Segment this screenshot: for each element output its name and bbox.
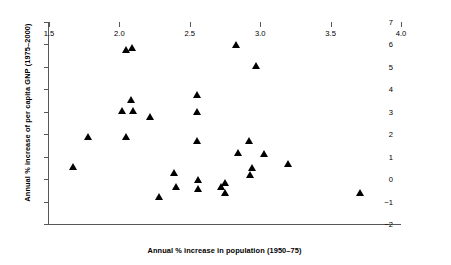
x-axis-tick-label: 1.5	[44, 29, 55, 38]
data-point-marker	[232, 41, 240, 48]
data-point-marker	[260, 150, 268, 157]
y-axis-tick	[44, 224, 49, 225]
y-axis-tick-label: 0	[389, 175, 393, 184]
data-point-marker	[234, 149, 242, 156]
data-point-marker	[118, 107, 126, 114]
y-axis-tick-label: 7	[389, 18, 393, 27]
data-point-marker	[356, 189, 364, 196]
x-axis-tick	[119, 22, 120, 27]
y-axis-label: Annual % increase of per capita GNP (197…	[23, 8, 32, 218]
y-axis-tick	[44, 67, 49, 68]
y-axis-tick	[44, 89, 49, 90]
y-axis-tick	[44, 202, 49, 203]
data-point-marker	[128, 44, 136, 51]
x-axis-tick	[331, 22, 332, 27]
y-axis-tick	[44, 157, 49, 158]
data-point-marker	[127, 96, 135, 103]
x-axis-tick-label: 2.0	[114, 29, 125, 38]
data-point-marker	[172, 183, 180, 190]
data-point-marker	[194, 185, 202, 192]
x-axis-tick	[260, 22, 261, 27]
data-point-marker	[129, 107, 137, 114]
data-point-marker	[122, 133, 130, 140]
data-point-marker	[248, 164, 256, 171]
x-axis-tick-label: 4.0	[396, 29, 407, 38]
data-point-marker	[246, 171, 254, 178]
data-point-marker	[69, 163, 77, 170]
data-point-marker	[193, 137, 201, 144]
x-axis-tick-label: 3.0	[255, 29, 266, 38]
y-axis-tick-label: 2	[389, 130, 393, 139]
data-point-marker	[252, 62, 260, 69]
data-point-marker	[193, 108, 201, 115]
y-axis-tick	[44, 134, 49, 135]
scatter-plot-figure: Annual % increase of per capita GNP (197…	[0, 0, 451, 265]
y-axis-tick	[44, 44, 49, 45]
x-axis-tick	[401, 22, 402, 27]
data-point-marker	[194, 176, 202, 183]
data-point-marker	[155, 193, 163, 200]
data-point-marker	[170, 169, 178, 176]
x-axis-tick	[190, 22, 191, 27]
y-axis-tick-label: −2	[384, 220, 393, 229]
data-point-marker	[193, 91, 201, 98]
data-point-marker	[221, 189, 229, 196]
x-axis-tick-label: 3.5	[325, 29, 336, 38]
x-axis-tick	[49, 22, 50, 27]
y-axis-tick-label: 1	[389, 152, 393, 161]
data-point-marker	[146, 113, 154, 120]
data-point-marker	[84, 133, 92, 140]
y-axis-tick	[44, 112, 49, 113]
y-axis-tick-label: 4	[389, 85, 393, 94]
plot-area: 76543210−1−21.52.02.53.03.54.0	[48, 22, 401, 225]
y-axis-tick	[44, 179, 49, 180]
y-axis-tick-label: 6	[389, 40, 393, 49]
data-point-marker	[245, 137, 253, 144]
y-axis-tick-label: −1	[384, 197, 393, 206]
y-axis-tick-label: 3	[389, 107, 393, 116]
x-axis-label: Annual % increase in population (1950–75…	[48, 246, 401, 255]
x-axis-tick-label: 2.5	[185, 29, 196, 38]
data-point-marker	[221, 179, 229, 186]
data-point-marker	[284, 160, 292, 167]
y-axis-tick-label: 5	[389, 62, 393, 71]
